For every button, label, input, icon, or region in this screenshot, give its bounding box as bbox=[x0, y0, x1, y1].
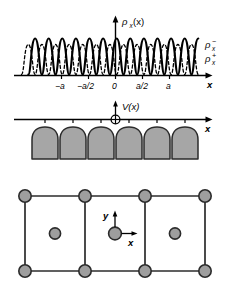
density-y-label-arg: (x) bbox=[133, 16, 144, 27]
corner-atom-tr bbox=[199, 190, 211, 202]
lattice-axis-x-label: x bbox=[127, 237, 134, 248]
corner-atom-tl bbox=[19, 190, 31, 202]
potential-wells bbox=[32, 127, 198, 159]
corner-atom-b2 bbox=[79, 265, 91, 277]
density-tick-label-1: −a/2 bbox=[77, 81, 94, 91]
density-y-label-rho: ρ bbox=[121, 16, 128, 27]
lattice-axis-y-label: y bbox=[102, 210, 109, 221]
density-x-axis-label: x bbox=[206, 79, 213, 90]
corner-atom-b3 bbox=[139, 265, 151, 277]
corner-atom-bl bbox=[19, 265, 31, 277]
corner-atom-t2 bbox=[79, 190, 91, 202]
potential-panel: V(x) x bbox=[14, 101, 213, 160]
legend-rho-minus-symbol: ρ bbox=[204, 39, 211, 50]
figure-canvas: ρ x (x) x −a −a/2 0 a/2 a ρ x − ρ bbox=[0, 0, 230, 282]
lattice-panel: y x bbox=[19, 190, 211, 277]
corner-atom-t3 bbox=[139, 190, 151, 202]
density-y-axis-label: ρ x (x) bbox=[121, 16, 144, 29]
lattice-axis-x bbox=[122, 231, 138, 236]
legend-item-rho-x-minus: ρ x − bbox=[204, 37, 216, 52]
legend-rho-minus-sup: − bbox=[212, 37, 216, 46]
density-tick-label-2: 0 bbox=[112, 81, 117, 91]
center-atom-origin bbox=[109, 227, 122, 240]
potential-well-3 bbox=[88, 127, 114, 159]
density-tick-label-0: −a bbox=[55, 81, 65, 91]
potential-well-1 bbox=[32, 127, 58, 159]
density-tick-label-4: a bbox=[166, 81, 171, 91]
center-atom-left bbox=[49, 228, 60, 239]
origin-crossed-circle-icon bbox=[111, 115, 120, 124]
corner-atom-br bbox=[199, 265, 211, 277]
lattice-center-atoms bbox=[49, 227, 180, 240]
legend-rho-plus-symbol: ρ bbox=[204, 53, 211, 64]
figure-root: ρ x (x) x −a −a/2 0 a/2 a ρ x − ρ bbox=[0, 0, 230, 282]
potential-well-4 bbox=[116, 127, 142, 159]
density-tick-label-3: a/2 bbox=[136, 81, 148, 91]
lattice-axis-y bbox=[113, 211, 118, 228]
legend-rho-plus-sup: + bbox=[212, 51, 216, 60]
potential-well-5 bbox=[144, 127, 170, 159]
potential-y-axis-label: V(x) bbox=[122, 101, 139, 112]
density-curve-rho-x-plus bbox=[22, 45, 199, 75]
legend-item-rho-x-plus: ρ x + bbox=[204, 51, 216, 66]
density-x-axis bbox=[14, 73, 213, 79]
potential-well-6 bbox=[172, 127, 198, 159]
potential-x-axis-label: x bbox=[204, 123, 211, 134]
charge-density-panel: ρ x (x) x −a −a/2 0 a/2 a ρ x − ρ bbox=[14, 16, 216, 91]
center-atom-right bbox=[169, 228, 180, 239]
density-legend: ρ x − ρ x + bbox=[204, 37, 216, 66]
potential-well-2 bbox=[60, 127, 86, 159]
